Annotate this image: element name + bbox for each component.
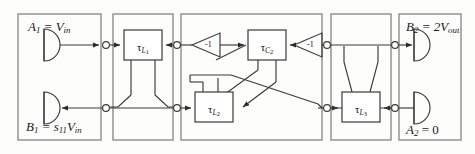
port-node-4-top[interactable] [392,42,399,49]
wire-cross-into-l2-arrow [243,82,276,107]
output-wave-label: B2 = 2Vout [406,20,459,35]
delay-block-C2-label: τC2 [248,38,286,56]
port-node-2-top[interactable] [174,42,181,49]
inverter-right-gain-label: -1 [307,41,314,49]
delay-block-L1-label: τL1 [124,38,162,56]
port-node-4-bottom[interactable] [392,105,399,112]
wave-digital-filter-diagram: A1 = Vin B1 = s11Vin B2 = 2Vout A2 = 0 τ… [0,0,475,154]
port-node-3-top[interactable] [324,42,331,49]
delay-block-L2-label: τL2 [195,100,233,118]
port-node-1-bottom[interactable] [103,105,110,112]
source-terminal-a2-shape [414,92,430,124]
reflected-wave-label: B1 = s11Vin [26,120,82,135]
wire-L1-adaptor-right-diagonal [155,95,173,107]
terminated-port-label: A2 = 0 [406,123,439,138]
wire-cross-l2-feedback [231,75,318,104]
port-node-2-bottom[interactable] [174,105,181,112]
input-wave-label: A1 = Vin [28,20,70,35]
port-node-3-bottom[interactable] [324,105,331,112]
wire-L3-right-diagonal [370,46,378,92]
inverter-left-gain-label: -1 [205,41,212,49]
wire-L3-left-diagonal [344,46,352,92]
panel-group [18,14,461,140]
port-node-1-top[interactable] [103,42,110,49]
delay-block-L3-label: τL3 [342,100,380,118]
